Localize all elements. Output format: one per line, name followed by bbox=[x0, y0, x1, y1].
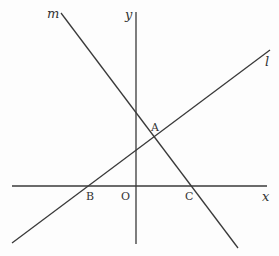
diagram-canvas: m y l A B O C x bbox=[0, 0, 279, 256]
origin-label: O bbox=[121, 190, 130, 203]
line-m bbox=[61, 13, 238, 248]
y-axis-label: y bbox=[124, 7, 133, 22]
x-axis-label: x bbox=[262, 189, 270, 204]
point-a-label: A bbox=[150, 121, 160, 134]
point-c-label: C bbox=[185, 190, 193, 203]
line-m-label: m bbox=[47, 6, 59, 21]
coordinate-diagram: m y l A B O C x bbox=[0, 0, 279, 256]
line-l-label: l bbox=[265, 54, 269, 69]
point-b-label: B bbox=[86, 190, 94, 203]
line-l bbox=[12, 50, 270, 243]
